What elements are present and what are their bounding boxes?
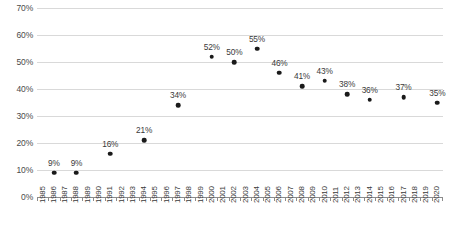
data-point[interactable]: [232, 60, 237, 65]
data-point-label: 9%: [48, 159, 60, 168]
x-axis-tick-label: 1989: [84, 186, 92, 203]
x-axis-tick-label: 1991: [106, 186, 114, 203]
data-point-label: 50%: [226, 48, 242, 57]
y-axis-tick-label: 50%: [0, 58, 33, 67]
y-axis-tick-label: 20%: [0, 139, 33, 148]
gridline: [37, 116, 443, 117]
x-axis-tick: [442, 197, 443, 201]
data-point-label: 43%: [317, 67, 333, 76]
data-point[interactable]: [300, 84, 305, 89]
x-axis-tick-label: 2008: [298, 186, 306, 203]
x-axis-tick-label: 2011: [332, 187, 340, 203]
data-point-label: 34%: [170, 91, 186, 100]
data-point[interactable]: [322, 79, 327, 84]
data-point-label: 37%: [396, 83, 412, 92]
x-axis-tick-label: 2015: [377, 186, 385, 203]
x-axis-tick-label: 2009: [309, 186, 317, 203]
data-point[interactable]: [345, 92, 350, 97]
x-axis-tick-label: 2016: [388, 186, 396, 203]
x-axis-tick-label: 2005: [264, 186, 272, 203]
data-point[interactable]: [52, 170, 57, 175]
y-axis-tick-label: 70%: [0, 4, 33, 13]
x-axis-tick-label: 2004: [253, 186, 261, 203]
scatter-chart: 0%10%20%30%40%50%60%70% 9%9%16%21%34%52%…: [0, 0, 449, 232]
x-axis-tick-label: 1994: [140, 186, 148, 203]
gridline: [37, 143, 443, 144]
x-axis-tick-label: 2012: [343, 186, 351, 203]
data-point[interactable]: [210, 54, 215, 59]
x-axis-tick-label: 1985: [39, 186, 47, 203]
data-point[interactable]: [401, 95, 406, 100]
data-point[interactable]: [435, 100, 440, 105]
y-axis: 0%10%20%30%40%50%60%70%: [0, 8, 33, 197]
x-axis: 1985198619871988198919901991199219931994…: [37, 197, 443, 232]
data-point-label: 55%: [249, 35, 265, 44]
x-axis-tick-label: 2002: [230, 186, 238, 203]
x-axis-tick-label: 2010: [321, 186, 329, 203]
data-point[interactable]: [108, 152, 113, 157]
data-point[interactable]: [255, 46, 260, 51]
x-axis-tick-label: 1999: [197, 186, 205, 203]
data-point-label: 38%: [339, 80, 355, 89]
gridline: [37, 89, 443, 90]
x-axis-tick-label: 1988: [72, 186, 80, 203]
x-axis-tick-label: 2003: [242, 186, 250, 203]
x-axis-tick-label: 2007: [287, 186, 295, 203]
y-axis-tick-label: 30%: [0, 112, 33, 121]
x-axis-tick-label: 1996: [163, 186, 171, 203]
x-axis-tick-label: 1995: [151, 186, 159, 203]
x-axis-tick-label: 1997: [174, 186, 182, 203]
data-point-label: 52%: [204, 43, 220, 52]
data-point[interactable]: [142, 138, 147, 143]
y-axis-tick-label: 10%: [0, 166, 33, 175]
data-point-label: 35%: [429, 89, 445, 98]
x-axis-tick-label: 1998: [185, 186, 193, 203]
data-point[interactable]: [176, 103, 181, 108]
data-point-label: 41%: [294, 72, 310, 81]
gridline: [37, 62, 443, 63]
x-axis-tick-label: 2019: [422, 186, 430, 203]
x-axis-tick-label: 2001: [219, 186, 227, 203]
data-point[interactable]: [367, 98, 372, 103]
x-axis-tick-label: 1987: [61, 186, 69, 203]
gridline: [37, 8, 443, 9]
y-axis-tick-label: 0%: [0, 193, 33, 202]
x-axis-tick-label: 2020: [433, 186, 441, 203]
gridline: [37, 170, 443, 171]
data-point-label: 21%: [136, 126, 152, 135]
x-axis-tick-label: 1990: [95, 186, 103, 203]
x-axis-tick-label: 2006: [275, 186, 283, 203]
gridline: [37, 35, 443, 36]
data-point-label: 36%: [362, 86, 378, 95]
x-axis-tick-label: 1986: [50, 186, 58, 203]
y-axis-tick-label: 40%: [0, 85, 33, 94]
x-axis-tick-label: 2000: [208, 186, 216, 203]
x-axis-tick-label: 1993: [129, 186, 137, 203]
x-axis-tick-label: 2018: [411, 186, 419, 203]
data-point-label: 46%: [271, 59, 287, 68]
data-point-label: 9%: [71, 159, 83, 168]
data-point[interactable]: [277, 71, 282, 76]
x-axis-tick-label: 1992: [118, 186, 126, 203]
plot-area: 9%9%16%21%34%52%50%55%46%41%43%38%36%37%…: [37, 8, 443, 197]
data-point-label: 16%: [102, 140, 118, 149]
x-axis-tick-label: 2013: [354, 186, 362, 203]
x-axis-tick-label: 2014: [366, 186, 374, 203]
y-axis-tick-label: 60%: [0, 31, 33, 40]
x-axis-tick-label: 2017: [400, 186, 408, 203]
data-point[interactable]: [74, 170, 79, 175]
